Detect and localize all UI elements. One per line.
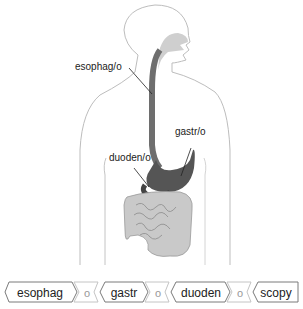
combining-vowel-chip: o bbox=[74, 282, 98, 302]
word-parts-strip: esophag o gastr o duoden o scopy bbox=[4, 281, 300, 303]
word-part-chip: scopy bbox=[253, 282, 298, 302]
body-outline-graphic bbox=[0, 0, 303, 265]
combining-vowel-text: o bbox=[237, 287, 243, 299]
combining-vowel-chip: o bbox=[145, 282, 169, 302]
word-part-text: duoden bbox=[181, 286, 221, 300]
word-part-text: gastr bbox=[111, 286, 138, 300]
word-part-text: esophag bbox=[17, 286, 63, 300]
word-part-chip: gastr bbox=[100, 282, 148, 302]
word-part-chip: duoden bbox=[171, 282, 230, 302]
label-stomach: gastr/o bbox=[175, 126, 206, 137]
word-part-text: scopy bbox=[260, 286, 291, 300]
combining-vowel-text: o bbox=[155, 287, 161, 299]
word-part-chip: esophag bbox=[5, 282, 77, 302]
combining-vowel-chip: o bbox=[227, 282, 251, 302]
combining-vowel-text: o bbox=[84, 287, 90, 299]
label-duodenum: duoden/o bbox=[109, 152, 151, 163]
label-esophagus: esophag/o bbox=[75, 61, 122, 72]
digestive-system-illustration: esophag/o gastr/o duoden/o bbox=[0, 0, 303, 265]
